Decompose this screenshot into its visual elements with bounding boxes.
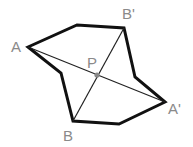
label-p: P <box>87 54 97 71</box>
label-a-prime: A' <box>168 100 181 117</box>
center-point-p <box>94 72 99 77</box>
label-a: A <box>11 38 21 55</box>
rotation-diagram: A B' P A' B <box>0 0 193 147</box>
label-b: B <box>63 127 73 144</box>
label-b-prime: B' <box>122 5 135 22</box>
diagram-canvas: A B' P A' B <box>0 0 193 147</box>
